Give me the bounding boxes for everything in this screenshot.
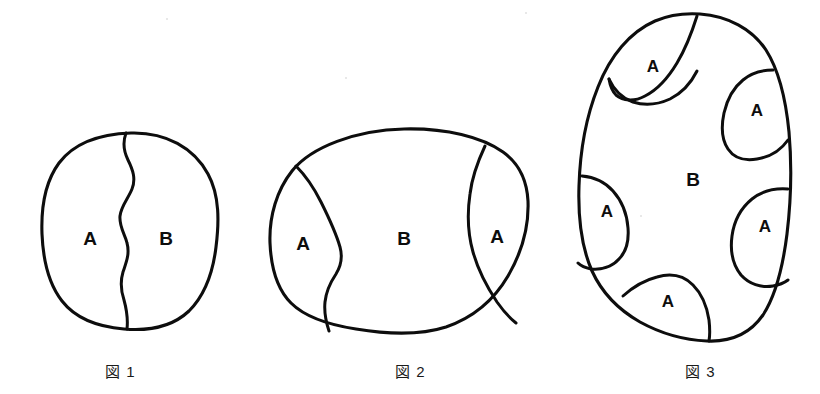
scan-speck xyxy=(166,18,168,20)
scan-speck xyxy=(525,12,527,14)
figure-3-label-a-left: A xyxy=(601,202,613,221)
figure-canvas: A B A B A xyxy=(0,0,820,394)
figure-1-caption: 図 1 xyxy=(105,360,136,381)
figure-3-label-a-bottom: A xyxy=(662,292,674,311)
figure-1-group: A B xyxy=(42,133,218,330)
figure-3-group: A A B A A A xyxy=(578,14,791,341)
figure-1-label-a: A xyxy=(83,228,97,249)
figure-3-label-b: B xyxy=(686,169,700,190)
figure-3-outline xyxy=(579,14,791,341)
figure-2-caption: 図 2 xyxy=(395,360,426,381)
figure-2-group: A B A xyxy=(270,129,528,333)
hand-drawn-figures-svg: A B A B A xyxy=(0,0,820,394)
scan-speck xyxy=(640,215,642,217)
figure-3-label-a-lower-right: A xyxy=(759,217,771,236)
figure-2-label-b: B xyxy=(397,228,411,249)
figure-2-label-a-right: A xyxy=(490,226,504,247)
figure-3-caption: 図 3 xyxy=(685,360,716,381)
figure-3-label-a-top-left: A xyxy=(647,57,659,76)
figure-3-label-a-upper-right: A xyxy=(751,101,763,120)
diagram-page: A B A B A xyxy=(0,0,820,394)
figure-2-label-a-left: A xyxy=(296,233,310,254)
scan-speck xyxy=(345,77,347,79)
figure-1-label-b: B xyxy=(159,228,173,249)
